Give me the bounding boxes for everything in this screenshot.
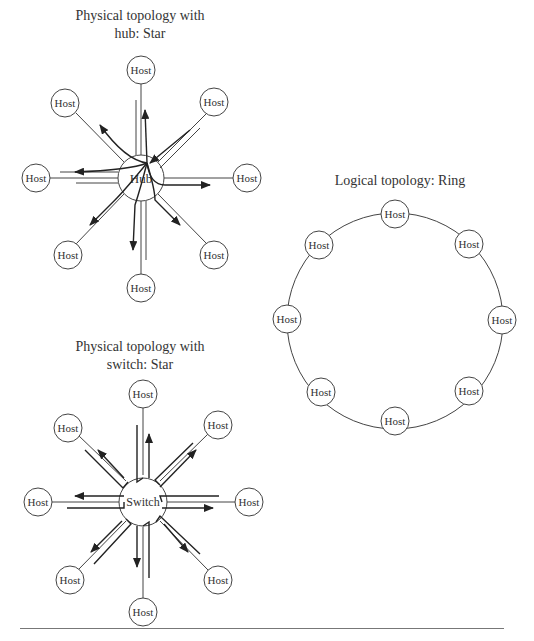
- svg-text:Host: Host: [492, 314, 513, 326]
- svg-text:Host: Host: [204, 249, 225, 261]
- svg-text:Host: Host: [385, 415, 406, 427]
- hub-host-right: Host: [233, 164, 261, 192]
- ring-host-bottom-right: Host: [455, 377, 483, 405]
- switch-label: Switch: [126, 495, 159, 509]
- ring-host-bottom-left: Host: [307, 378, 335, 406]
- ring-host-nodes: Host Host Host Host Host Host Host Host: [273, 200, 516, 435]
- svg-text:Host: Host: [237, 172, 258, 184]
- bottom-rule: [20, 628, 504, 629]
- svg-text:Host: Host: [133, 388, 154, 400]
- ring-host-top-right: Host: [455, 230, 483, 258]
- switch-host-bottom: Host: [129, 598, 157, 626]
- hub-signal-arrows: [75, 110, 210, 250]
- hub-host-top-right: Host: [200, 88, 228, 116]
- switch-host-top: Host: [129, 380, 157, 408]
- hub-host-top: Host: [127, 56, 155, 84]
- svg-text:Host: Host: [58, 249, 79, 261]
- ring-host-left: Host: [273, 305, 301, 333]
- svg-text:Host: Host: [459, 385, 480, 397]
- svg-text:Host: Host: [277, 313, 298, 325]
- svg-text:Host: Host: [208, 419, 229, 431]
- svg-text:Host: Host: [131, 64, 152, 76]
- svg-text:Host: Host: [133, 606, 154, 618]
- svg-text:Host: Host: [55, 97, 76, 109]
- svg-text:Host: Host: [28, 496, 49, 508]
- svg-text:Host: Host: [60, 574, 81, 586]
- svg-text:Host: Host: [204, 96, 225, 108]
- svg-text:Host: Host: [208, 574, 229, 586]
- switch-host-bottom-left: Host: [56, 566, 84, 594]
- svg-text:Host: Host: [26, 172, 47, 184]
- svg-text:Host: Host: [309, 239, 330, 251]
- hub-host-left: Host: [22, 164, 50, 192]
- svg-text:Host: Host: [385, 208, 406, 220]
- ring-host-right: Host: [488, 306, 516, 334]
- hub-host-bottom: Host: [127, 274, 155, 302]
- ring-host-top: Host: [381, 200, 409, 228]
- hub-host-bottom-left: Host: [54, 241, 82, 269]
- svg-text:Host: Host: [58, 422, 79, 434]
- svg-text:Host: Host: [239, 496, 260, 508]
- switch-host-bottom-right: Host: [204, 566, 232, 594]
- hub-host-top-left: Host: [51, 89, 79, 117]
- ring-host-top-left: Host: [305, 231, 333, 259]
- hub-host-bottom-right: Host: [200, 241, 228, 269]
- switch-host-left: Host: [24, 488, 52, 516]
- switch-host-top-left: Host: [54, 414, 82, 442]
- switch-host-right: Host: [235, 488, 263, 516]
- ring-host-bottom: Host: [381, 407, 409, 435]
- switch-host-top-right: Host: [204, 411, 232, 439]
- svg-text:Host: Host: [311, 386, 332, 398]
- topology-diagrams: Hub Host Host Host Host Host Host Host H…: [0, 0, 534, 641]
- svg-text:Host: Host: [459, 238, 480, 250]
- svg-text:Host: Host: [131, 282, 152, 294]
